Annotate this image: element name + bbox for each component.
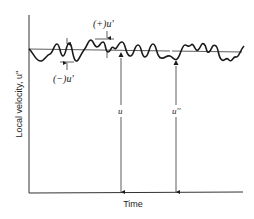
instantaneous-velocity-label: u'' [172,106,181,116]
minus-fluctuation-label: (−)u' [53,73,74,85]
mean-velocity-arrowhead-top [119,52,124,57]
plus-fluctuation-label: (+)u' [93,18,114,30]
y-axis-label: Local velocity, u'' [14,70,24,137]
x-axis-label: Time [123,199,143,209]
velocity-diagram: (+)u' (−)u' u u'' Time Local velocity, u… [0,0,254,219]
mean-velocity-label: u [118,106,123,116]
instantaneous-velocity-arrowhead-top [174,60,179,65]
x-axis [29,192,243,193]
